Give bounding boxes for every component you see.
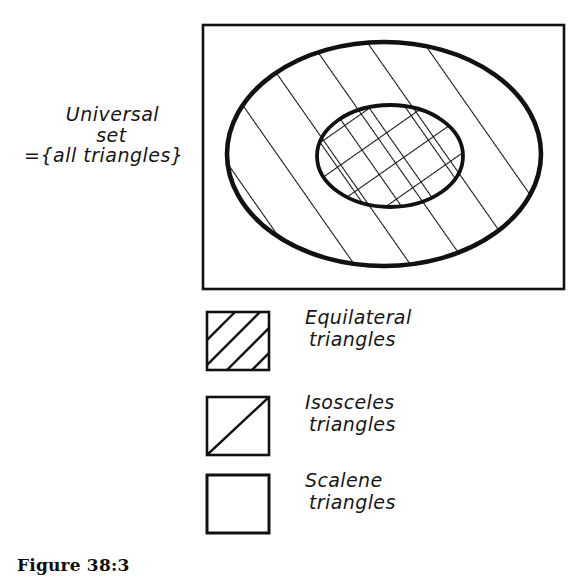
legend-label-scalene: Scalene triangles [305, 469, 396, 514]
legend-label-scalene-line-1: Scalene [305, 469, 383, 491]
legend-item-equilateral: Equilateral triangles [205, 310, 565, 382]
legend-swatch-scalene [205, 473, 271, 535]
legend-label-isosceles: Isosceles triangles [305, 391, 396, 436]
figure-caption: Figure 38:3 [17, 555, 129, 575]
legend-swatch-isosceles [205, 395, 271, 457]
legend-label-equilateral: Equilateral triangles [305, 306, 412, 351]
legend-label-isosceles-line-2: triangles [305, 413, 396, 435]
legend-item-scalene: Scalene triangles [205, 473, 565, 545]
legend-label-isosceles-line-1: Isosceles [305, 391, 395, 413]
legend-item-isosceles: Isosceles triangles [205, 395, 565, 467]
legend-label-equilateral-line-2: triangles [305, 328, 412, 350]
legend: Equilateral triangles Isosceles triangle… [0, 0, 578, 581]
legend-label-scalene-line-2: triangles [305, 491, 396, 513]
legend-label-equilateral-line-1: Equilateral [305, 306, 412, 328]
legend-swatch-equilateral [205, 310, 271, 372]
figure-38-3: Universal set ={all triangles} Equilater… [0, 0, 578, 581]
